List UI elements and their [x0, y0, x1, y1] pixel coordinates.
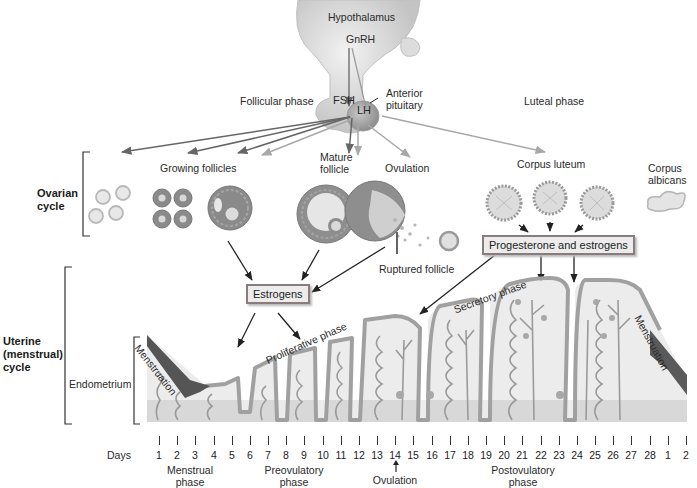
fsh-arrows [122, 117, 352, 153]
growing-follicles-label: Growing follicles [160, 162, 236, 174]
day-number: 2 [167, 449, 187, 461]
day-number: 25 [585, 449, 605, 461]
day-number: 4 [204, 449, 224, 461]
menstrual-phase-label-1: Menstrual [155, 464, 225, 476]
postovulatory-phase-label-2: phase [478, 476, 568, 488]
fsh-label: FSH [333, 94, 355, 106]
uterine-cycle-label-1: Uterine [3, 335, 41, 347]
day-number: 20 [494, 449, 514, 461]
follicular-phase-label: Follicular phase [240, 95, 314, 107]
ovarian-bracket [83, 152, 90, 236]
ovarian-cycle-label-1: Ovarian [37, 187, 78, 199]
hypothalamus-label: Hypothalamus [328, 11, 395, 23]
estrogens-box: Estrogens [246, 284, 310, 304]
uterine-cycle-label-2: (menstrual) [3, 348, 63, 360]
day-number: 19 [476, 449, 496, 461]
day-number: 27 [621, 449, 641, 461]
luteal-phase-label: Luteal phase [524, 95, 584, 107]
day-number: 7 [258, 449, 278, 461]
ovulation-day-label: Ovulation [365, 474, 425, 486]
day-number: 21 [512, 449, 532, 461]
day-number: 22 [531, 449, 551, 461]
progesterone-estrogens-box: Progesterone and estrogens [482, 235, 635, 255]
mature-follicle-label-2: follicle [320, 163, 349, 175]
day-number: 12 [349, 449, 369, 461]
day-number: 1 [149, 449, 169, 461]
corpus-luteum-label: Corpus luteum [517, 158, 585, 170]
day-number: 13 [367, 449, 387, 461]
corpus-albicans-label-1: Corpus [648, 162, 682, 174]
day-number: 9 [294, 449, 314, 461]
corpus-albicans-label-2: albicans [648, 174, 687, 186]
day-number: 2 [676, 449, 696, 461]
anterior-pituitary-label-1: Anterior [386, 87, 423, 99]
endometrium-illustration [147, 278, 687, 422]
day-number: 16 [422, 449, 442, 461]
primordial-follicles [89, 186, 130, 223]
ovulation-follicle [345, 181, 458, 254]
day-number: 8 [276, 449, 296, 461]
day-number: 3 [185, 449, 205, 461]
lh-arrows [262, 116, 545, 157]
preovulatory-phase-label-1: Preovulatory [254, 464, 334, 476]
day-number: 28 [640, 449, 660, 461]
days-label: Days [107, 449, 131, 461]
ovarian-cycle-label-2: cycle [37, 200, 65, 212]
uterine-cycle-label-3: cycle [3, 361, 31, 373]
postovulatory-phase-label-1: Postovulatory [478, 464, 568, 476]
day-number: 1 [658, 449, 678, 461]
day-number: 11 [331, 449, 351, 461]
day-number: 5 [222, 449, 242, 461]
day-number: 10 [313, 449, 333, 461]
day-number: 15 [403, 449, 423, 461]
ovulation-label: Ovulation [385, 162, 429, 174]
day-number: 24 [567, 449, 587, 461]
ruptured-follicle-label: Ruptured follicle [379, 263, 454, 275]
day-number: 18 [458, 449, 478, 461]
day-number: 6 [240, 449, 260, 461]
mature-follicle-label-1: Mature [320, 151, 353, 163]
gnrh-label: GnRH [346, 33, 375, 45]
corpus-albicans-illustration [648, 192, 686, 212]
anterior-pituitary-label-2: pituitary [386, 99, 423, 111]
ovulation-day-arrow-icon [392, 460, 400, 472]
day-number: 17 [440, 449, 460, 461]
lh-label: LH [357, 104, 371, 116]
menstrual-phase-label-2: phase [155, 476, 225, 488]
preovulatory-phase-label-2: phase [254, 476, 334, 488]
day-number: 23 [549, 449, 569, 461]
uterine-bracket [65, 267, 72, 424]
endometrium-label: Endometrium [69, 378, 131, 390]
day-number: 26 [603, 449, 623, 461]
growing-follicles [153, 186, 252, 230]
